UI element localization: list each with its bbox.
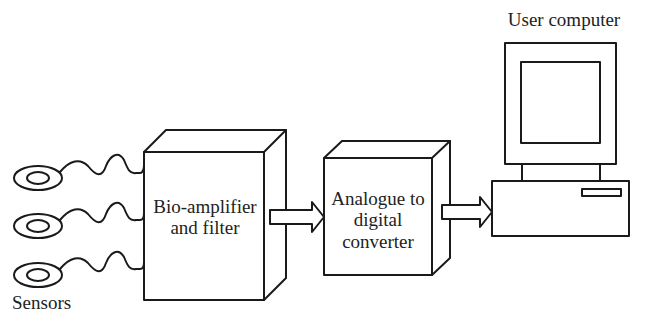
user-computer-label: User computer: [494, 9, 634, 30]
sensor-electrode-icon: [14, 263, 62, 287]
computer-icon: [492, 43, 629, 236]
bio-amplifier-label-line: and filter: [144, 217, 266, 238]
bio-amplifier-label-line: Bio-amplifier: [144, 196, 266, 217]
sensor-wire: [60, 203, 144, 222]
drive-slot: [582, 189, 621, 196]
bio-amplifier-label: Bio-amplifier and filter: [144, 196, 266, 239]
sensor-wire: [60, 252, 144, 271]
sensor-electrode-icon: [14, 166, 62, 190]
adc-label-line: digital: [324, 209, 432, 230]
adc-label: Analogue to digital converter: [324, 188, 432, 252]
diagram-canvas: [0, 0, 646, 321]
adc-label-line: converter: [324, 231, 432, 252]
sensors-label: Sensors: [12, 292, 71, 313]
monitor-screen: [521, 62, 600, 143]
block-arrow-icon: [270, 202, 324, 232]
adc-label-line: Analogue to: [324, 188, 432, 209]
sensor-wire: [60, 155, 144, 174]
sensor-electrode-icon: [14, 214, 62, 238]
